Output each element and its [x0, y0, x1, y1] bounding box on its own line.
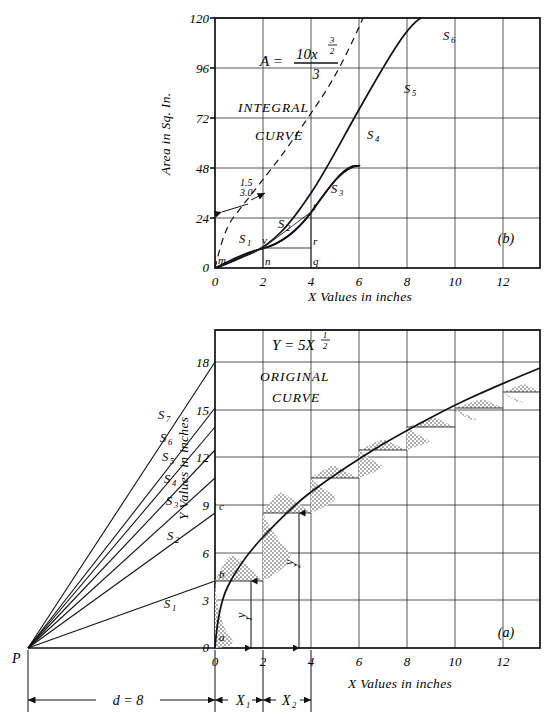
figure-svg: 120 96 72 48 24 0 Area in Sq. In. 0 2 4 …: [0, 0, 559, 721]
panel-b-point-n: n: [265, 255, 271, 267]
panel-b-S2-base: S: [278, 217, 285, 231]
panel-b-title-line1: INTEGRAL: [237, 100, 309, 115]
panel-b-point-r: r: [313, 235, 318, 247]
panel-b-point-v: v: [262, 234, 267, 246]
panel-b-ytick-0: 0: [203, 260, 210, 275]
panel-b-S4-base: S: [367, 128, 374, 142]
panel-b-ytick-96: 96: [196, 61, 210, 76]
panel-b-xtick-8: 8: [404, 274, 411, 289]
panel-b-ytick-72: 72: [196, 111, 210, 126]
panel-a-xtick-8: 8: [404, 654, 411, 669]
panel-a-S7-base: S: [158, 408, 165, 422]
panel-b-ytick-48: 48: [196, 161, 210, 176]
panel-a-S3-sub: 3: [173, 500, 178, 510]
panel-b-equation-numerator: 10x: [296, 46, 318, 62]
panel-a-point-b: b: [219, 568, 225, 580]
panel-a-S3-base: S: [166, 494, 173, 508]
panel-b-xtick-2: 2: [260, 274, 267, 289]
figure-root: 120 96 72 48 24 0 Area in Sq. In. 0 2 4 …: [0, 0, 559, 721]
panel-a-exp-bot: 2: [323, 341, 328, 351]
panel-a-title-line1: ORIGINAL: [260, 369, 330, 384]
panel-a-S2-base: S: [167, 529, 174, 543]
panel-a-x1-sub: 1: [246, 700, 250, 710]
panel-b-equation-denominator: 3: [312, 67, 320, 82]
panel-a-distance-label: d = 8: [113, 693, 143, 708]
panel-a-S1-sub: 1: [172, 603, 176, 613]
panel-b-exp-top: 3: [329, 35, 335, 45]
panel-a-ytick-6: 6: [203, 546, 210, 561]
panel-b-ytick-24: 24: [196, 211, 210, 226]
panel-a-ytick-15: 15: [196, 403, 210, 418]
panel-a-figure-label: (a): [498, 625, 515, 641]
panel-b-xtick-6: 6: [356, 274, 363, 289]
panel-a-ytick-3: 3: [202, 593, 210, 608]
panel-a-exp-top: 1: [323, 330, 328, 340]
panel-b-S3-base: S: [331, 182, 338, 196]
panel-b-S5-base: S: [404, 82, 411, 96]
panel-a-S4-base: S: [164, 472, 171, 486]
panel-a-title-line2: CURVE: [272, 390, 320, 405]
panel-b-point-q: q: [313, 255, 319, 267]
panel-a-point-c: c: [219, 500, 224, 512]
panel-b-xtick-0: 0: [212, 274, 219, 289]
panel-a-S5-base: S: [162, 450, 169, 464]
panel-a-equation-lhs: Y = 5X: [272, 337, 315, 353]
panel-b-xtick-10: 10: [449, 274, 463, 289]
panel-a-x2-base: X: [281, 693, 291, 708]
panel-b-S1-base: S: [239, 232, 246, 246]
panel-a-ytick-18: 18: [196, 355, 210, 370]
panel-a-S6-base: S: [160, 431, 167, 445]
panel-a-ytick-9: 9: [203, 498, 210, 513]
panel-b-annot-30: 3.0: [239, 187, 253, 198]
panel-b-xtick-12: 12: [497, 274, 511, 289]
panel-b-S1-sub: 1: [247, 238, 251, 248]
panel-a-S1-base: S: [164, 597, 171, 611]
panel-b-S6-base: S: [443, 29, 450, 43]
panel-b-x-axis-label: X Values in inches: [307, 289, 412, 304]
panel-a-y-axis-label: Y Values in inches: [176, 417, 191, 520]
panel-b-S5-sub: 5: [412, 88, 416, 98]
panel-b-xtick-4: 4: [308, 274, 315, 289]
panel-a-xtick-10: 10: [449, 654, 463, 669]
panel-b-exp-bot: 2: [330, 46, 335, 56]
panel-b-point-m: m: [218, 254, 226, 266]
panel-a-y1-sub: 1: [244, 617, 254, 621]
panel-b-y-axis-label: Area in Sq. In.: [158, 93, 173, 176]
panel-a-point-a: a: [219, 631, 225, 643]
panel-a-xtick-12: 12: [497, 654, 511, 669]
panel-b-equation-lhs: A =: [259, 53, 283, 69]
panel-b-S3-sub: 3: [338, 188, 343, 198]
panel-a-S5-sub: 5: [170, 456, 174, 466]
panel-b-ytick-120: 120: [190, 11, 210, 26]
panel-a-pole-label: P: [11, 651, 21, 666]
panel-a-x-axis-label: X Values in inches: [347, 676, 452, 691]
panel-a-xtick-6: 6: [356, 654, 363, 669]
panel-a-x1-base: X: [235, 693, 245, 708]
panel-b-figure-label: (b): [498, 231, 515, 247]
